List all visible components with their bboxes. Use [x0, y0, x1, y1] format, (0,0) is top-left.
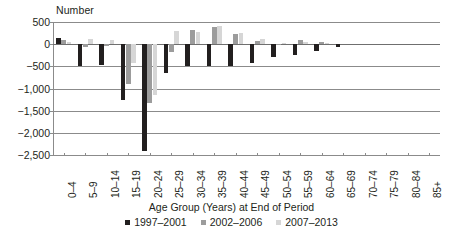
x-axis-title: Age Group (Years) at End of Period — [0, 201, 463, 213]
bar — [174, 31, 179, 44]
bar-group — [333, 22, 355, 155]
bar — [255, 41, 260, 45]
y-axis-tick-label: −2,500 — [2, 150, 50, 160]
x-axis-tick-label: 30–34 — [197, 170, 207, 198]
bar-group — [53, 22, 75, 155]
x-axis-tick-label: 10–14 — [111, 170, 121, 198]
bar-group — [376, 22, 398, 155]
x-axis-tick-label: 45–49 — [261, 170, 271, 198]
legend-label: 2007–2013 — [285, 216, 338, 228]
y-axis-tick-label: −1,500 — [2, 106, 50, 116]
x-axis-tick-label: 25–29 — [175, 170, 185, 198]
x-axis-tick-labels: 0–45–910–1415–1920–2425–2930–3435–3940–4… — [53, 156, 440, 202]
x-axis-tick-mark — [236, 153, 237, 156]
bar — [147, 44, 152, 103]
y-axis-tick-label: 0 — [2, 39, 50, 49]
legend-swatch-icon — [276, 220, 281, 225]
bar — [190, 30, 195, 44]
legend-swatch-icon — [125, 220, 130, 225]
bar — [142, 44, 147, 150]
bar — [314, 44, 319, 51]
bar — [212, 27, 217, 44]
bar-group — [161, 22, 183, 155]
bar — [319, 42, 324, 45]
legend-label: 2002–2006 — [210, 216, 263, 228]
bar — [61, 40, 66, 44]
bar — [121, 44, 126, 100]
bar — [207, 44, 212, 66]
bar-group — [354, 22, 376, 155]
bars-layer — [53, 22, 440, 155]
bar — [293, 44, 298, 55]
bar — [56, 38, 61, 44]
bar-group — [225, 22, 247, 155]
bar — [83, 44, 88, 47]
bar-group — [268, 22, 290, 155]
x-axis-tick-label: 55–59 — [304, 170, 314, 198]
bar — [336, 44, 341, 47]
population-change-bar-chart: Number 5000−500−1,000−1,500−2,000−2,500 … — [0, 0, 463, 234]
x-axis-tick-label: 60–64 — [326, 170, 336, 198]
bar-group — [290, 22, 312, 155]
x-axis-tick-mark — [343, 153, 344, 156]
x-axis-tick-label: 5–9 — [89, 181, 99, 198]
x-axis-tick-label: 40–44 — [240, 170, 250, 198]
x-axis-tick-label: 50–54 — [283, 170, 293, 198]
bar — [126, 44, 131, 84]
bar-group — [75, 22, 97, 155]
x-axis-tick-mark — [64, 153, 65, 156]
bar — [260, 39, 265, 44]
y-axis-tick-labels: 5000−500−1,000−1,500−2,000−2,500 — [0, 22, 50, 155]
x-axis-tick-mark — [386, 153, 387, 156]
bar — [99, 44, 104, 64]
x-axis-tick-mark — [429, 153, 430, 156]
legend-item: 2002–2006 — [201, 216, 263, 228]
x-axis-tick-mark — [300, 153, 301, 156]
bar-group — [311, 22, 333, 155]
bar — [276, 44, 281, 45]
bar — [131, 44, 136, 63]
x-axis-tick-mark — [85, 153, 86, 156]
bar — [298, 40, 303, 44]
x-axis-tick-mark — [193, 153, 194, 156]
bar-group — [247, 22, 269, 155]
bar — [164, 44, 169, 73]
bar-group — [96, 22, 118, 155]
bar — [196, 32, 201, 44]
x-axis-tick-mark — [279, 153, 280, 156]
bar — [88, 39, 93, 44]
x-axis-tick-label: 15–19 — [132, 170, 142, 198]
x-axis-tick-label: 80–84 — [412, 170, 422, 198]
bar — [104, 44, 109, 46]
legend-swatch-icon — [201, 220, 206, 225]
x-axis-tick-label: 70–74 — [369, 170, 379, 198]
bar-group — [118, 22, 140, 155]
bar — [110, 40, 115, 44]
x-axis-tick-mark — [150, 153, 151, 156]
legend-label: 1997–2001 — [134, 216, 187, 228]
bar — [228, 44, 233, 66]
x-axis-tick-mark — [107, 153, 108, 156]
bar — [153, 44, 158, 95]
x-axis-tick-mark — [408, 153, 409, 156]
legend-item: 2007–2013 — [276, 216, 338, 228]
bar-group — [182, 22, 204, 155]
x-axis-tick-label: 85+ — [433, 181, 443, 198]
x-axis-tick-label: 35–39 — [218, 170, 228, 198]
x-axis-tick-label: 0–4 — [68, 181, 78, 198]
bar — [233, 34, 238, 44]
bar — [67, 42, 72, 45]
bar — [303, 42, 308, 44]
bar — [250, 44, 255, 63]
y-axis-tick-label: 500 — [2, 17, 50, 27]
bar — [185, 44, 190, 66]
bar — [78, 44, 83, 66]
x-axis-tick-mark — [171, 153, 172, 156]
x-axis-tick-mark — [257, 153, 258, 156]
bar — [169, 44, 174, 52]
x-axis-tick-label: 75–79 — [390, 170, 400, 198]
x-axis-tick-mark — [365, 153, 366, 156]
x-axis-tick-mark — [322, 153, 323, 156]
y-axis-title: Number — [56, 4, 94, 16]
bar — [239, 33, 244, 44]
